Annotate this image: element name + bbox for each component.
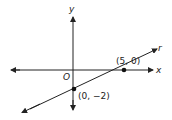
y-axis-label: y <box>68 4 75 14</box>
point-5-0-label: (5, 0) <box>116 56 140 66</box>
point-5-0 <box>122 68 127 73</box>
origin-label: O <box>63 72 70 82</box>
point-0-neg2 <box>72 87 77 92</box>
point-0-neg2-label: (0, −2) <box>78 91 110 101</box>
line-r-label: r <box>158 43 163 53</box>
coordinate-diagram: y x O r (5, 0) (0, −2) <box>0 0 172 120</box>
x-axis-label: x <box>155 65 162 75</box>
line-r-lower-arrow <box>22 104 40 113</box>
